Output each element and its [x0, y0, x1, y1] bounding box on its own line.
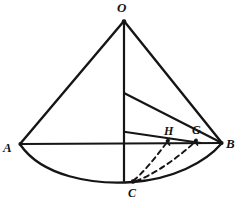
base-arc-A-C-B	[21, 144, 222, 183]
label-bottom-base-C: C	[128, 187, 136, 199]
inner-chord-line-to-G	[124, 132, 201, 143]
apex-vertex-marker	[122, 19, 127, 24]
left-base-vertex-marker	[18, 142, 22, 146]
label-left-base-A: A	[3, 141, 12, 154]
label-right-base-B: B	[226, 137, 235, 150]
figure-canvas	[0, 0, 242, 208]
slant-line-OA	[20, 21, 124, 144]
label-apex-O: O	[117, 1, 126, 14]
label-point-G: G	[192, 124, 201, 136]
geometry-figure: O A B H G C	[0, 0, 242, 208]
dashed-arc-C-to-H	[134, 142, 168, 181]
bottom-base-vertex-marker	[131, 179, 135, 183]
right-base-vertex-marker	[219, 141, 223, 145]
label-point-H: H	[164, 125, 173, 137]
